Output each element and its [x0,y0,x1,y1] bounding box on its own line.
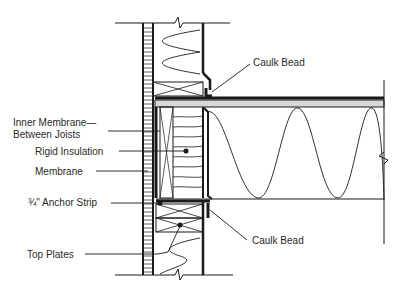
label-top-plates: Top Plates [27,249,74,260]
anchor-strip-dot [158,201,163,206]
floor-sheathing [155,100,384,107]
label-caulk-bead-top: Caulk Bead [253,57,305,68]
label-inner-membrane-line2: Between Joists [13,129,80,140]
joist-batt-insulation [207,108,384,200]
top-plates-dot [178,223,183,228]
rigid-insulation-dot [184,149,189,154]
label-inner-membrane-line1: Inner Membrane— [13,117,96,128]
label-membrane: Membrane [35,166,83,177]
leader-caulk-top [212,64,250,92]
top-break-symbol [175,17,183,28]
upper-wall-drywall-return [203,73,210,90]
bottom-break-symbol [175,269,183,280]
label-anchor-strip: ¾" Anchor Strip [28,197,97,208]
lower-wall-batt-insulation [160,238,200,274]
leader-caulk-bottom [210,210,247,240]
label-caulk-bead-bottom: Caulk Bead [252,235,304,246]
upper-wall-batt-insulation [163,30,201,74]
joist-top-drywall-stop [204,108,212,199]
label-rigid-insulation: Rigid Insulation [35,146,103,157]
